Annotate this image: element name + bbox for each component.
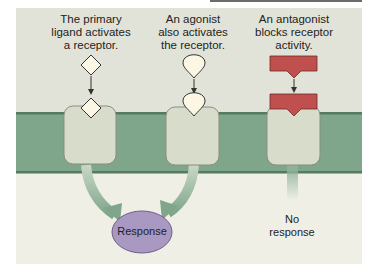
blocked-signal-stub — [287, 165, 298, 200]
primary-ligand-icon — [81, 55, 101, 75]
no-response-label: No response — [262, 213, 322, 239]
response-label: Response — [112, 225, 172, 237]
caption-primary-ligand: The primary ligand activates a receptor. — [46, 13, 136, 52]
agonist-icon — [183, 55, 205, 78]
caption-antagonist: An antagonist blocks receptor activity. — [246, 13, 342, 52]
receptor-2 — [166, 107, 219, 165]
caption-agonist: An agonist also activates the receptor. — [148, 13, 238, 52]
antagonist-icon — [270, 56, 317, 78]
